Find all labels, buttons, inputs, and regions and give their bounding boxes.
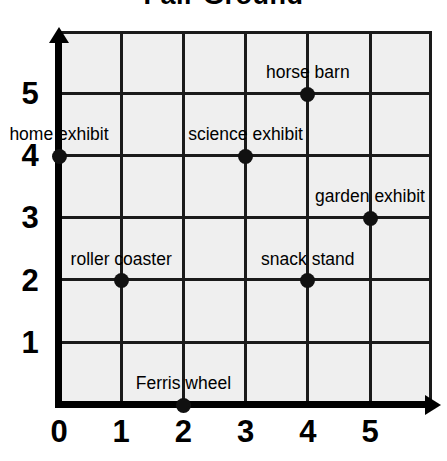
grid-line-horizontal [59, 341, 432, 344]
x-axis-arrow-icon [425, 395, 441, 415]
data-point[interactable] [238, 149, 253, 164]
y-axis-arrow-icon [49, 27, 69, 43]
data-point-label: roller coaster [71, 250, 172, 268]
data-point-label: snack stand [261, 250, 354, 268]
x-tick-label: 2 [163, 416, 203, 447]
data-point-label: garden exhibit [315, 188, 425, 206]
x-tick-label: 5 [350, 416, 390, 447]
data-point-label: science exhibit [188, 126, 303, 144]
data-point[interactable] [114, 273, 129, 288]
x-tick-label: 0 [39, 416, 79, 447]
x-tick-label: 1 [101, 416, 141, 447]
y-tick-label: 4 [10, 140, 50, 171]
y-tick-label: 3 [10, 202, 50, 233]
data-point[interactable] [300, 87, 315, 102]
data-point[interactable] [363, 211, 378, 226]
y-tick-label: 1 [10, 327, 50, 358]
y-tick-label: 2 [10, 265, 50, 296]
coordinate-grid-figure: Fair Ground 12345 012345 home exhibitrol… [0, 0, 447, 461]
page-title: Fair Ground [0, 0, 447, 11]
data-point[interactable] [176, 398, 191, 413]
x-axis-line [57, 401, 429, 408]
data-point-label: Ferris wheel [136, 375, 231, 393]
x-tick-label: 3 [226, 416, 266, 447]
grid-line-horizontal [59, 92, 432, 95]
x-tick-label: 4 [288, 416, 328, 447]
y-axis-line [55, 38, 62, 408]
data-point-label: horse barn [266, 64, 350, 82]
data-point-label: home exhibit [9, 126, 108, 144]
data-point[interactable] [52, 149, 67, 164]
y-tick-label: 5 [10, 78, 50, 109]
